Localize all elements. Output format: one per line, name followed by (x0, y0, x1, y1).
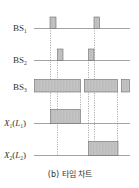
pulse (51, 110, 81, 124)
label-bs1: BS1 (13, 23, 27, 34)
pulse (122, 80, 130, 93)
timing-chart: BS1 BS2 BS3 X1(L1) X2(L2) (b) 타임 차트 (0, 0, 139, 188)
pulse (85, 80, 118, 93)
pulse (58, 49, 64, 61)
pulse (94, 17, 100, 29)
signal-bs1: BS1 (13, 17, 130, 34)
caption: (b) 타임 차트 (48, 170, 92, 179)
label-bs3: BS3 (13, 82, 27, 93)
pulse (89, 142, 119, 156)
label-x1: X1(L1) (3, 118, 26, 129)
signal-bs2: BS2 (13, 49, 130, 66)
pulse (89, 49, 95, 61)
label-bs2: BS2 (13, 55, 27, 66)
label-x2: X2(L2) (3, 150, 26, 161)
pulse (50, 17, 56, 29)
signal-bs3: BS3 (13, 80, 130, 94)
pulse (35, 80, 81, 93)
signal-x2: X2(L2) (3, 142, 130, 162)
signal-x1: X1(L1) (3, 110, 130, 130)
